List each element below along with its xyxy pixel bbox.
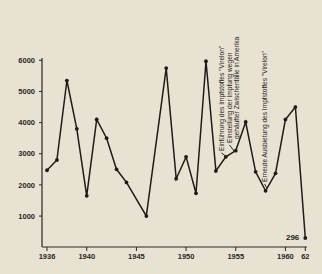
y-tick-label: 2000 xyxy=(18,181,35,190)
data-point xyxy=(254,170,258,174)
y-tick-label: 4000 xyxy=(18,118,35,127)
x-tick-label: 1945 xyxy=(128,252,145,261)
data-point xyxy=(174,177,178,181)
annotation-text: Einführung des Impfstoffes "Virelon" xyxy=(218,45,226,151)
x-tick-label: 1960 xyxy=(277,252,294,261)
x-tick-label: 1950 xyxy=(178,252,195,261)
data-point xyxy=(144,214,148,218)
data-point xyxy=(184,155,188,159)
y-tick-label: 1000 xyxy=(18,212,35,221)
data-series: 296 xyxy=(45,59,307,242)
x-tick-label: 1940 xyxy=(78,252,95,261)
y-tick-label: 5000 xyxy=(18,87,35,96)
data-point xyxy=(125,181,129,185)
annotation-leader xyxy=(230,145,235,151)
y-tick-label: 6000 xyxy=(18,56,35,65)
data-point xyxy=(284,118,288,122)
data-point xyxy=(303,236,307,240)
data-point xyxy=(194,191,198,195)
data-point xyxy=(204,59,208,63)
x-tick-label: 1955 xyxy=(227,252,244,261)
y-tick-label: 3000 xyxy=(18,149,35,158)
annotation-text: Erneute Ausbietung des Impfstoffes "Vire… xyxy=(261,50,269,182)
data-point xyxy=(293,105,297,109)
data-point xyxy=(274,171,278,175)
point-label: 296 xyxy=(286,233,300,242)
x-ticks: 19361940194519501955196062 xyxy=(39,247,310,261)
data-point xyxy=(105,136,109,140)
data-point xyxy=(214,169,218,173)
data-point xyxy=(234,149,238,153)
data-point xyxy=(75,127,79,131)
line-chart: 100020003000400050006000 193619401945195… xyxy=(0,0,322,274)
data-point xyxy=(244,120,248,124)
x-tick-label: 1936 xyxy=(39,252,56,261)
annotations: Einführung des Impfstoffes "Virelon"Eins… xyxy=(218,36,269,188)
data-point xyxy=(164,66,168,70)
data-point xyxy=(85,194,89,198)
annotation-text: gehäufter Zwischenfälle in Amerika xyxy=(233,36,241,139)
data-point xyxy=(55,158,59,162)
data-point xyxy=(264,189,268,193)
annotation-leader xyxy=(265,184,268,188)
data-point xyxy=(115,167,119,171)
y-ticks: 100020003000400050006000 xyxy=(18,56,42,221)
x-tick-label: 62 xyxy=(301,252,309,261)
data-point xyxy=(95,118,99,122)
data-point xyxy=(65,79,69,83)
data-point xyxy=(45,168,49,172)
